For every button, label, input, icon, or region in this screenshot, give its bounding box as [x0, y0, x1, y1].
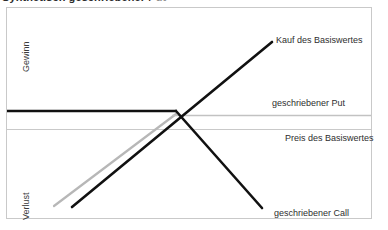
underlying-long-ascending — [72, 42, 272, 207]
annotation-written-put: geschriebener Put — [272, 98, 345, 108]
y-axis-top-label: Gewinn — [21, 41, 31, 72]
y-axis-bottom-label: Verlust — [21, 192, 31, 220]
chart-screenshot: Synthetisch geschriebener Put Gewinn Ver… — [0, 0, 388, 230]
annotation-underlying-long: Kauf des Basiswertes — [276, 35, 363, 45]
annotation-written-call: geschriebener Call — [274, 208, 349, 218]
x-axis-label: Preis des Basiswertes — [285, 133, 374, 143]
written-put-gray-ascending — [54, 114, 176, 206]
written-call-descending — [176, 111, 262, 208]
